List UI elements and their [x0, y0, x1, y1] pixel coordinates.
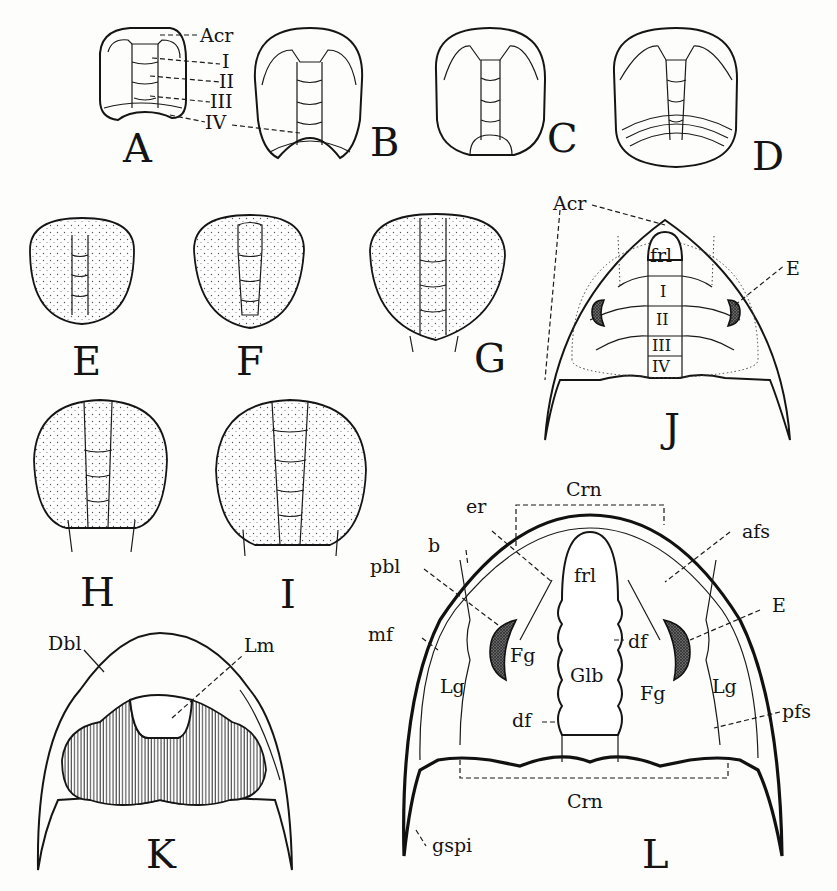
callout-e-j: E	[786, 257, 800, 279]
callout-df-right: df	[628, 630, 649, 652]
label-fg-right: Fg	[640, 682, 665, 704]
label-frl-j: frl	[650, 244, 672, 266]
callout-lm-k: Lm	[244, 634, 275, 656]
callout-iii-a: III	[210, 90, 233, 112]
label-iii-j: III	[652, 336, 671, 355]
panel-g	[370, 214, 505, 352]
panel-label-f: F	[236, 338, 264, 384]
label-iv-j: IV	[652, 357, 670, 376]
panel-label-l: L	[642, 831, 669, 877]
panel-i	[216, 400, 366, 556]
panel-label-k: K	[146, 831, 177, 877]
callout-e-l: E	[772, 594, 786, 616]
panel-b	[232, 28, 362, 158]
callout-i-a: I	[222, 50, 230, 72]
callout-acr-a: Acr	[199, 24, 234, 46]
label-glb: Glb	[570, 664, 603, 686]
label-ii-j: II	[656, 310, 669, 329]
panel-h	[34, 400, 167, 552]
panel-label-j: J	[660, 405, 680, 451]
callout-gspi: gspi	[432, 834, 472, 856]
panel-label-d: D	[752, 133, 784, 179]
callout-pbl: pbl	[370, 555, 400, 577]
label-i-j: I	[660, 282, 666, 301]
panel-label-b: B	[370, 119, 399, 165]
panel-d	[614, 28, 737, 167]
panel-label-e: E	[72, 338, 101, 384]
label-fg-left: Fg	[510, 644, 535, 666]
glabella	[558, 532, 622, 735]
callout-iv-a: IV	[205, 111, 227, 133]
callout-acr-j: Acr	[552, 192, 587, 214]
callout-dbl-k: Dbl	[48, 632, 81, 654]
panel-c	[436, 28, 545, 155]
panel-f	[194, 215, 304, 328]
panel-label-c: C	[547, 115, 578, 161]
callout-er: er	[466, 495, 487, 517]
callout-afs: afs	[742, 520, 770, 542]
panel-label-h: H	[80, 569, 115, 615]
figure-caption	[0, 876, 837, 891]
callout-ii-a: II	[219, 70, 234, 92]
label-crn-bottom: Crn	[567, 790, 603, 812]
panel-label-i: I	[280, 571, 296, 617]
label-lg-left: Lg	[440, 675, 465, 697]
label-lg-right: Lg	[712, 675, 737, 697]
panel-label-g: G	[474, 335, 506, 381]
label-crn-top: Crn	[566, 478, 602, 500]
callout-pfs: pfs	[782, 700, 811, 722]
callout-b: b	[428, 534, 440, 556]
callout-mf: mf	[368, 623, 395, 645]
panel-e	[30, 218, 134, 324]
figure-canvas: Acr I II III IV A B C D E	[0, 0, 837, 891]
panel-label-a: A	[122, 125, 153, 171]
label-frl-l: frl	[574, 564, 596, 586]
callout-df-left: df	[512, 709, 533, 731]
